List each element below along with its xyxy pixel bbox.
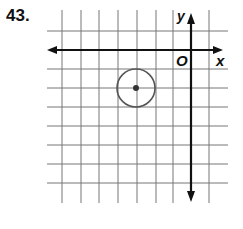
coordinate-graph: y x O xyxy=(0,0,243,229)
circle-center-point xyxy=(133,85,139,91)
x-axis-label: x xyxy=(215,52,225,69)
origin-label: O xyxy=(176,52,188,69)
x-axis-left-arrow-icon xyxy=(47,46,57,54)
y-axis-up-arrow-icon xyxy=(187,13,195,24)
y-axis-label: y xyxy=(176,8,186,24)
y-axis-down-arrow-icon xyxy=(187,191,195,202)
